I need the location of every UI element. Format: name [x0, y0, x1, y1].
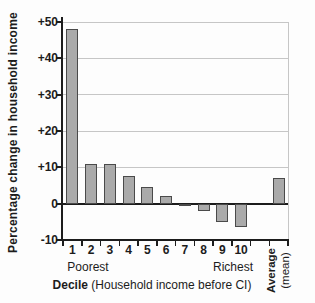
plot-right-border [288, 22, 289, 240]
average-bar-sublabel: (mean) [279, 240, 292, 300]
gridline-+30 [63, 94, 288, 95]
bar-decile-4 [123, 176, 135, 203]
x-annotation-poorest: Poorest [43, 260, 133, 274]
bar-decile-2 [85, 164, 97, 204]
x-axis-title-rest: (Household income before CI) [88, 278, 251, 292]
y-tick-label-+50: +50 [20, 15, 58, 29]
x-tick-label-5: 5 [137, 244, 157, 257]
y-tick-label-0: 0 [20, 197, 58, 211]
bar-decile-10 [235, 204, 247, 228]
x-axis-title: Decile (Household income before CI) [27, 278, 277, 292]
x-tick-label-10: 10 [231, 244, 251, 257]
bar-decile-9 [216, 204, 228, 222]
x-tick-label-7: 7 [175, 244, 195, 257]
bar-decile-6 [160, 196, 172, 203]
gridline-+40 [63, 58, 288, 59]
x-tick-label-1: 1 [62, 244, 82, 257]
x-tick-label-9: 9 [212, 244, 232, 257]
y-tick-label-+20: +20 [20, 124, 58, 138]
bar-decile-1 [66, 29, 78, 203]
bar-decile-7 [179, 204, 191, 206]
x-axis-title-bold: Decile [53, 278, 88, 292]
bar-decile-8 [198, 204, 210, 211]
gridline-+20 [63, 131, 288, 132]
x-tick-label-2: 2 [81, 244, 101, 257]
y-tick-label-+30: +30 [20, 88, 58, 102]
x-tick-label-4: 4 [119, 244, 139, 257]
y-tick-label-+10: +10 [20, 160, 58, 174]
y-tick-label-+40: +40 [20, 51, 58, 65]
bar-decile-3 [104, 164, 116, 204]
bar-decile-5 [141, 187, 153, 203]
y-tick-label--10: -10 [20, 233, 58, 247]
y-axis-line [61, 17, 63, 241]
x-tick-label-8: 8 [194, 244, 214, 257]
gridline-+50 [63, 22, 288, 23]
bar-average [273, 178, 285, 203]
x-tick-label-3: 3 [100, 244, 120, 257]
bar-chart-figure: Percentage change in household income +5… [0, 0, 315, 303]
x-tick-label-6: 6 [156, 244, 176, 257]
